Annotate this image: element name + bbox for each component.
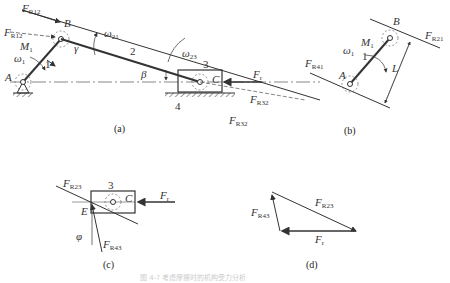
subfigure-a: FR12 FR12 B M1 ω1 1 A γ ω21 2 ω23 β 3 C … bbox=[3, 2, 320, 135]
caption-d: (d) bbox=[306, 259, 318, 271]
label-point-A-b: A bbox=[338, 69, 346, 81]
label-beta: β bbox=[140, 68, 147, 80]
label-link-1: 1 bbox=[45, 58, 51, 70]
label-omega23: ω23 bbox=[182, 47, 197, 61]
label-link-3-c: 3 bbox=[108, 179, 114, 191]
label-FR32-dashed: FR32 bbox=[249, 93, 269, 107]
label-point-C-c: C bbox=[125, 192, 133, 204]
label-point-B: B bbox=[64, 17, 71, 29]
subfigure-b: B FR21 M1 ω1 1 FR41 A L (b) bbox=[304, 15, 444, 137]
label-omega21: ω21 bbox=[104, 27, 119, 41]
label-point-E: E bbox=[80, 205, 88, 217]
subfigure-c: FR23 3 C Fr E φ FR43 (c) bbox=[56, 177, 175, 271]
caption-b: (b) bbox=[344, 125, 356, 137]
label-point-A: A bbox=[4, 71, 12, 83]
label-gamma: γ bbox=[74, 42, 79, 54]
label-FR41: FR41 bbox=[304, 57, 324, 71]
caption-a: (a) bbox=[114, 123, 125, 135]
label-Fr: Fr bbox=[252, 68, 263, 82]
label-FR12-top: FR12 bbox=[21, 2, 41, 16]
label-FR23-d: FR23 bbox=[314, 196, 334, 210]
label-Fr-d: Fr bbox=[314, 233, 325, 247]
label-FR23-c: FR23 bbox=[62, 177, 82, 191]
label-M1-b: M1 bbox=[360, 36, 374, 50]
label-Fr-c: Fr bbox=[159, 189, 170, 203]
subfigure-d: FR23 FR43 Fr (d) bbox=[250, 192, 356, 271]
label-omega1-b: ω1 bbox=[343, 44, 355, 58]
label-omega1: ω1 bbox=[14, 52, 26, 66]
label-phi: φ bbox=[76, 230, 82, 242]
label-FR43-d: FR43 bbox=[250, 206, 270, 220]
label-FR12-dashed: FR12 bbox=[3, 26, 23, 40]
label-link-1-b: 1 bbox=[362, 50, 368, 62]
label-link-4: 4 bbox=[175, 100, 181, 112]
label-FR21: FR21 bbox=[424, 29, 444, 43]
label-FR43-c: FR43 bbox=[102, 238, 122, 252]
label-link-3: 3 bbox=[203, 58, 209, 70]
label-point-C: C bbox=[212, 73, 220, 85]
label-point-B-b: B bbox=[393, 15, 400, 27]
label-L: L bbox=[391, 62, 398, 74]
label-FR32-solid: FR32 bbox=[228, 114, 248, 128]
caption-c: (c) bbox=[103, 259, 114, 271]
mechanism-figure: FR12 FR12 B M1 ω1 1 A γ ω21 2 ω23 β 3 C … bbox=[0, 0, 450, 283]
label-link-2: 2 bbox=[130, 45, 136, 57]
figure-caption: 图 4-? 考虑摩擦时的机构受力分析 bbox=[140, 273, 246, 282]
